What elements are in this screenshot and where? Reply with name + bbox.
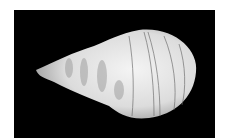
- shell-photo: [14, 10, 215, 138]
- shell-illustration: [14, 10, 215, 138]
- shell-body: [36, 30, 196, 119]
